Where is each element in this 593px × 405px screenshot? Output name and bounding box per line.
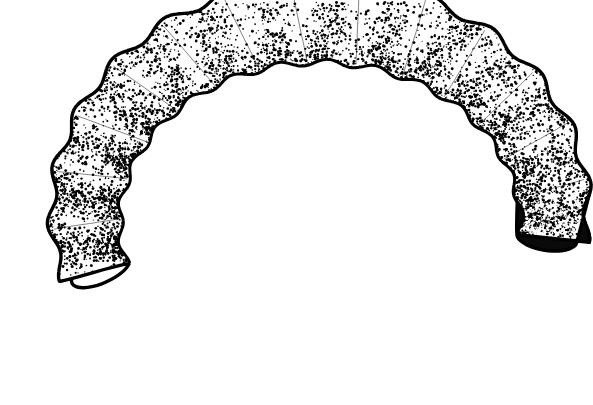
illustration-canvas: scarabaeiform grub larva, lateral view, … (0, 0, 593, 405)
grub-larva-illustration: scarabaeiform grub larva, lateral view, … (0, 0, 593, 405)
